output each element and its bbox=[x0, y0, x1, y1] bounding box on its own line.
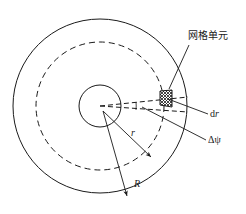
label-dr: dr bbox=[210, 109, 219, 119]
leader-mesh-cell bbox=[169, 45, 189, 89]
mesh-cell-hatched bbox=[160, 90, 172, 107]
label-mesh-cell: 网格单元 bbox=[188, 31, 228, 41]
circular-mesh-diagram: 网格单元 dr Δψ r R bbox=[0, 0, 246, 214]
label-radius-R: R bbox=[134, 179, 140, 189]
label-dr-r: r bbox=[215, 108, 219, 119]
wedge-lower-ray bbox=[100, 106, 188, 112]
label-radius-r: r bbox=[131, 128, 135, 138]
dimension-arrow-R bbox=[103, 111, 127, 196]
dimension-arrow-r bbox=[103, 111, 151, 157]
label-delta-psi: Δψ bbox=[208, 135, 221, 145]
leader-delta-psi bbox=[142, 107, 206, 140]
